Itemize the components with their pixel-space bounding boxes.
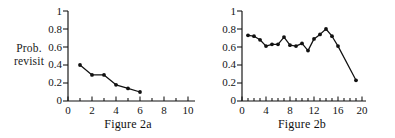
- figure-pair: Prob. revisit 1 0.8 0.6 0.4 0.2 0 0 2 4 …: [0, 0, 395, 138]
- y-ticks: [63, 11, 68, 101]
- data-point-markers: [246, 27, 358, 82]
- figure-2b: 1 0.8 0.6 0.4 0.2 0 0 4 8 12 16 20: [198, 0, 395, 138]
- figure-caption: Figure 2b: [252, 117, 352, 132]
- data-series-line: [248, 29, 356, 80]
- y-ticks: [237, 11, 242, 101]
- x-ticks: [68, 97, 188, 102]
- x-ticks: [242, 97, 362, 102]
- figure-2a: Prob. revisit 1 0.8 0.6 0.4 0.2 0 0 2 4 …: [0, 0, 198, 138]
- data-series-line: [80, 65, 140, 92]
- figure-caption: Figure 2a: [78, 117, 178, 132]
